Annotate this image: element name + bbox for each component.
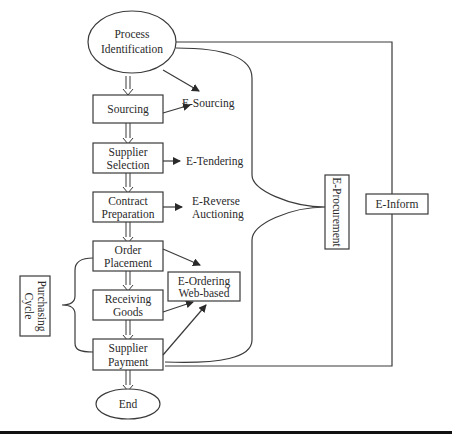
step-supplier-selection-line1: Supplier <box>109 146 148 159</box>
step-supplier-selection-line2: Selection <box>107 159 150 171</box>
e-sourcing-label: E-Sourcing <box>182 97 235 110</box>
step-order-placement: Order Placement <box>93 241 163 271</box>
e-reverse-auctioning-line2: Auctioning <box>192 208 244 221</box>
e-procurement-label: E-Procurement <box>331 177 343 247</box>
step-receiving-goods: Receiving Goods <box>93 290 163 320</box>
purchasing-cycle-box: Purchasing Cycle <box>20 276 50 336</box>
step-receiving-goods-line1: Receiving <box>105 293 152 306</box>
e-inform-label: E-Inform <box>376 198 419 210</box>
step-supplier-payment-line1: Supplier <box>109 342 148 355</box>
procurement-flow-diagram: Process Identification Sourcing Supplier… <box>0 0 452 434</box>
e-reverse-auctioning-line1: E-Reverse <box>192 195 240 207</box>
step-order-placement-line2: Placement <box>104 257 153 269</box>
e-ordering-line2: Web-based <box>179 287 230 299</box>
step-receiving-goods-line2: Goods <box>113 306 144 318</box>
step-order-placement-line1: Order <box>115 244 142 256</box>
start-node-label-line1: Process <box>114 28 150 40</box>
step-contract-preparation-line1: Contract <box>108 195 148 207</box>
step-supplier-payment-line2: Payment <box>108 356 149 369</box>
step-contract-preparation-line2: Preparation <box>101 208 154 221</box>
e-inform-box: E-Inform <box>366 194 428 214</box>
step-sourcing: Sourcing <box>93 95 163 123</box>
purchasing-cycle-line2: Cycle <box>22 293 35 320</box>
start-node-label-line2: Identification <box>101 43 163 55</box>
step-supplier-payment: Supplier Payment <box>93 339 163 370</box>
end-node-label: End <box>119 398 138 410</box>
step-sourcing-label: Sourcing <box>107 103 149 116</box>
step-contract-preparation: Contract Preparation <box>93 192 163 222</box>
purchasing-cycle-line1: Purchasing <box>35 280 48 331</box>
start-node-process-identification: Process Identification <box>88 11 176 73</box>
e-ordering-box: E-Ordering Web-based <box>168 272 240 301</box>
e-tendering-label: E-Tendering <box>186 155 244 168</box>
e-procurement-brace <box>165 48 326 362</box>
e-procurement-box: E-Procurement <box>325 175 349 249</box>
step-supplier-selection: Supplier Selection <box>93 143 163 173</box>
end-node: End <box>96 389 160 419</box>
purchasing-cycle-brace <box>62 258 93 352</box>
